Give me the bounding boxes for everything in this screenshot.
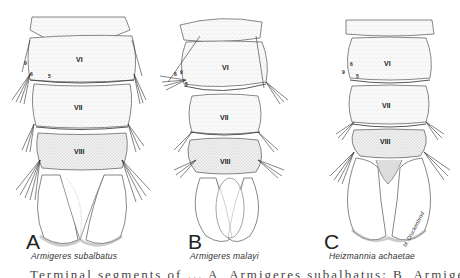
- segment-label: VI: [222, 64, 229, 71]
- illustration-b: VI VII VIII 6 9 5: [160, 0, 310, 262]
- seta-number: 9: [342, 69, 345, 75]
- seta-number: 6: [350, 61, 353, 67]
- species-name-b: Armigeres malayi: [190, 251, 259, 261]
- segment-label: VIII: [74, 148, 85, 155]
- illustration-a: VI VII VIII 9 6 5: [0, 0, 160, 262]
- panel-b: VI VII VIII 6 9 5 B Armigeres malayi: [160, 0, 310, 262]
- seta-number: 6: [30, 71, 33, 77]
- panel-a: VI VII VIII 9 6 5 A Armigeres subalbatus: [0, 0, 160, 262]
- species-name-a: Armigeres subalbatus: [31, 251, 117, 261]
- seta-number: 5: [48, 73, 51, 79]
- segment-label: VIII: [220, 158, 231, 165]
- segment-label: VIII: [380, 138, 391, 145]
- segment-label: VI: [384, 60, 391, 67]
- illustration-c: VI VII VIII 6 9 5: [310, 0, 455, 262]
- seta-number: 6: [174, 71, 177, 77]
- panel-letter-a: A: [26, 231, 40, 252]
- segment-label: VII: [74, 104, 83, 111]
- seta-number: 9: [180, 69, 183, 75]
- seta-number: 5: [356, 73, 359, 79]
- panel-letter-b: B: [188, 231, 202, 252]
- species-name-c: Heizmannia achaetae: [329, 251, 415, 261]
- panel-letter-c: C: [324, 231, 339, 252]
- seta-number: 9: [24, 60, 27, 66]
- segment-label: VII: [382, 102, 391, 109]
- figure-caption: Terminal segments of ... A, Armigeres su…: [30, 268, 460, 278]
- segment-label: VII: [220, 114, 229, 121]
- seta-number: 5: [185, 81, 188, 87]
- panel-c: VI VII VIII 6 9 5 C Heizmannia achaetae …: [310, 0, 455, 262]
- segment-label: VI: [76, 56, 83, 63]
